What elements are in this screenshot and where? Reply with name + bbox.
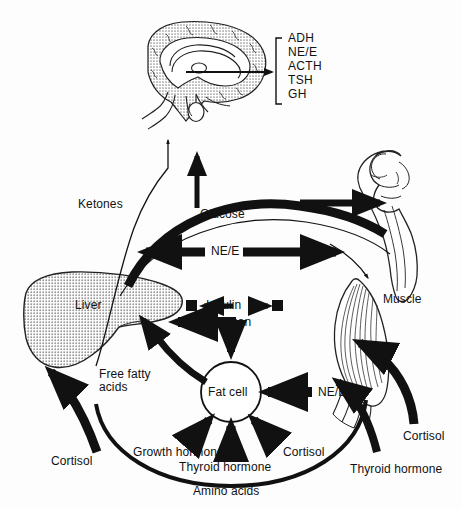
hormone-item-acth: ACTH xyxy=(288,60,322,73)
label-liver: Liver xyxy=(75,299,102,312)
liver-illustration xyxy=(24,272,183,368)
label-ne-e-liver-muscle: NE/E xyxy=(211,245,239,258)
label-free-fatty-acids-line2: acids xyxy=(99,381,128,394)
cortisol-left-arrow xyxy=(51,372,97,452)
free-fatty-acids-arrow xyxy=(143,320,206,382)
label-ketones: Ketones xyxy=(78,198,123,211)
hormone-item-tsh: TSH xyxy=(288,74,313,87)
hormone-item-adh: ADH xyxy=(288,32,314,45)
hormone-item-ne-e: NE/E xyxy=(288,46,317,59)
label-insulin: Insulin xyxy=(206,299,241,312)
label-glucose: Glucose xyxy=(200,208,245,221)
label-muscle: Muscle xyxy=(383,293,422,306)
physiology-diagram: ADH NE/E ACTH TSH GH Ketones Glucose NE/… xyxy=(0,0,462,508)
label-ne-e-fatcell: NE/E xyxy=(318,386,346,399)
label-amino-acids: Amino acids xyxy=(193,485,259,498)
label-growth-hormone: Growth hormone xyxy=(133,446,224,459)
label-cortisol-center: Cortisol xyxy=(283,446,324,459)
brain-sagittal-illustration xyxy=(142,22,266,130)
label-thyroid-hormone-right: Thyroid hormone xyxy=(350,463,442,476)
insulin-right-block xyxy=(272,300,283,311)
cortisol-center-arrow xyxy=(254,420,278,446)
hormone-item-gh: GH xyxy=(288,88,307,101)
hormone-list-bracket xyxy=(276,38,282,104)
growth-hormone-arrow xyxy=(186,420,209,446)
label-glucagon: Glucagon xyxy=(199,316,251,329)
label-cortisol-left: Cortisol xyxy=(51,455,92,468)
insulin-left-block xyxy=(186,300,197,311)
label-cortisol-right: Cortisol xyxy=(403,430,444,443)
label-fat-cell: Fat cell xyxy=(208,386,247,399)
label-thyroid-hormone-center: Thyroid hormone xyxy=(179,461,271,474)
glucose-arc xyxy=(128,204,385,286)
